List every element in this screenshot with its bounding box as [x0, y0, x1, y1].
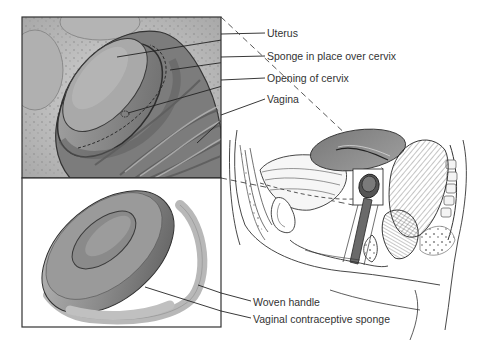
inset-top [7, 4, 240, 178]
leader-lines-top [221, 33, 265, 115]
label-uterus: Uterus [267, 27, 298, 39]
label-woven-handle: Woven handle [253, 296, 320, 308]
label-sponge-in-place: Sponge in place over cervix [267, 50, 396, 62]
label-vaginal-contraceptive-sponge: Vaginal contraceptive sponge [253, 313, 390, 325]
leader-lines-bottom [221, 293, 251, 318]
label-opening-of-cervix: Opening of cervix [267, 72, 349, 84]
inset-bottom [19, 166, 221, 337]
diagram-artwork [0, 0, 487, 350]
label-vagina: Vagina [267, 93, 299, 105]
diagram-stage: Uterus Sponge in place over cervix Openi… [0, 0, 487, 350]
